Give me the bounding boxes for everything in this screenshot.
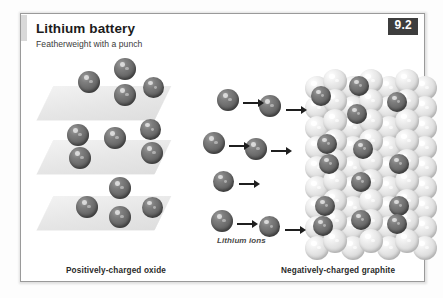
oxide-lithium-sphere [142,197,163,218]
oxide-lithium-sphere [143,77,164,98]
figure-page: Lithium battery Featherweight with a pun… [0,0,443,298]
arrow-head [252,220,258,228]
arrow-head [286,147,292,155]
arrow-head [301,106,307,114]
arrow-shaft [286,109,301,111]
oxide-lithium-sphere [140,119,161,140]
intercalated-lithium-sphere [313,216,333,236]
intercalated-lithium-sphere [319,154,339,174]
oxide-lithium-sphere [109,206,131,228]
caption-positive-oxide: Positively-charged oxide [66,266,166,275]
intercalated-lithium-sphere [353,139,373,159]
intercalated-lithium-sphere [351,172,371,192]
flow-arrow [237,220,258,228]
oxide-lithium-sphere [104,127,126,149]
flow-arrow [229,142,250,150]
oxide-lithium-sphere [69,147,91,169]
arrow-shaft [285,229,300,231]
intercalated-lithium-sphere [351,210,371,230]
oxide-lithium-sphere [114,58,136,80]
arrow-head [300,226,306,234]
arrow-shaft [239,183,254,185]
oxide-lithium-sphere [109,177,131,199]
flow-arrow [271,147,292,155]
oxide-lithium-sphere [114,84,136,106]
intercalated-lithium-sphere [387,92,407,112]
free-lithium-sphere [213,171,234,192]
figure-card: Lithium battery Featherweight with a pun… [20,13,425,282]
arrow-head [254,180,260,188]
intercalated-lithium-sphere [349,76,369,96]
oxide-lithium-sphere [141,142,163,164]
intercalated-lithium-sphere [387,214,407,234]
intercalated-lithium-sphere [389,196,409,216]
arrow-shaft [237,223,252,225]
intercalated-lithium-sphere [311,86,331,106]
intercalated-lithium-sphere [347,104,367,124]
arrow-shaft [243,102,258,104]
flow-arrow [285,226,306,234]
arrow-shaft [229,145,244,147]
arrow-shaft [271,150,286,152]
flow-arrow [243,99,264,107]
lithium-ions-label: Lithium ions [217,236,266,245]
oxide-lithium-sphere [67,124,89,146]
free-lithium-sphere [259,216,280,237]
oxide-lithium-sphere [76,196,98,218]
intercalated-lithium-sphere [389,154,409,174]
flow-arrow [239,180,260,188]
free-lithium-sphere [211,210,233,232]
intercalated-lithium-sphere [315,196,335,216]
flow-arrow [286,106,307,114]
arrow-head [244,142,250,150]
caption-negative-graphite: Negatively-charged graphite [281,266,395,275]
free-lithium-sphere [203,132,225,154]
diagram-stage: Lithium ions Positively-charged oxide Ne… [21,14,424,281]
oxide-lithium-sphere [78,71,100,93]
graphite-sphere [359,229,383,253]
intercalated-lithium-sphere [317,134,337,154]
free-lithium-sphere [217,89,239,111]
arrow-head [258,99,264,107]
